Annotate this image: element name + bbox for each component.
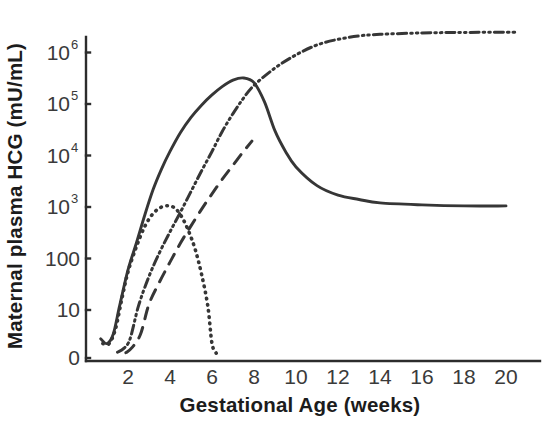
y-tick-label: 10 <box>57 298 80 321</box>
y-tick-exponent: 5 <box>71 88 78 103</box>
x-tick-label: 20 <box>494 365 517 388</box>
y-tick-label: 0 <box>68 346 80 369</box>
x-tick-label: 2 <box>122 365 134 388</box>
x-tick-label: 10 <box>284 365 307 388</box>
plot-area: Maternal plasma HCG (mU/mL) Gestational … <box>0 0 549 434</box>
y-tick-exponent: 4 <box>71 140 78 155</box>
x-tick-label: 6 <box>206 365 218 388</box>
y-tick-label: 100 <box>45 247 80 270</box>
curve-dashed <box>126 141 252 353</box>
x-axis-tick-labels: 2468101214161820 <box>122 365 518 388</box>
y-tick-label: 10 <box>47 144 70 167</box>
y-tick-exponent: 6 <box>71 37 78 52</box>
y-axis-tick-labels: 010100103104105106 <box>45 37 90 370</box>
data-curves <box>101 32 517 353</box>
y-tick-label: 10 <box>47 92 70 115</box>
y-tick-exponent: 3 <box>71 191 78 206</box>
x-tick-label: 18 <box>452 365 475 388</box>
curve-dash-dot-dot <box>118 32 517 352</box>
hcg-chart: Maternal plasma HCG (mU/mL) Gestational … <box>0 0 549 434</box>
x-tick-label: 8 <box>248 365 260 388</box>
x-tick-label: 16 <box>410 365 433 388</box>
x-tick-label: 14 <box>368 365 392 388</box>
y-tick-label: 10 <box>47 41 70 64</box>
y-tick-label: 10 <box>47 195 70 218</box>
x-axis-title: Gestational Age (weeks) <box>180 393 421 416</box>
x-tick-label: 4 <box>164 365 176 388</box>
x-tick-label: 12 <box>326 365 349 388</box>
y-axis-title: Maternal plasma HCG (mU/mL) <box>3 43 26 349</box>
curve-solid <box>101 78 506 344</box>
